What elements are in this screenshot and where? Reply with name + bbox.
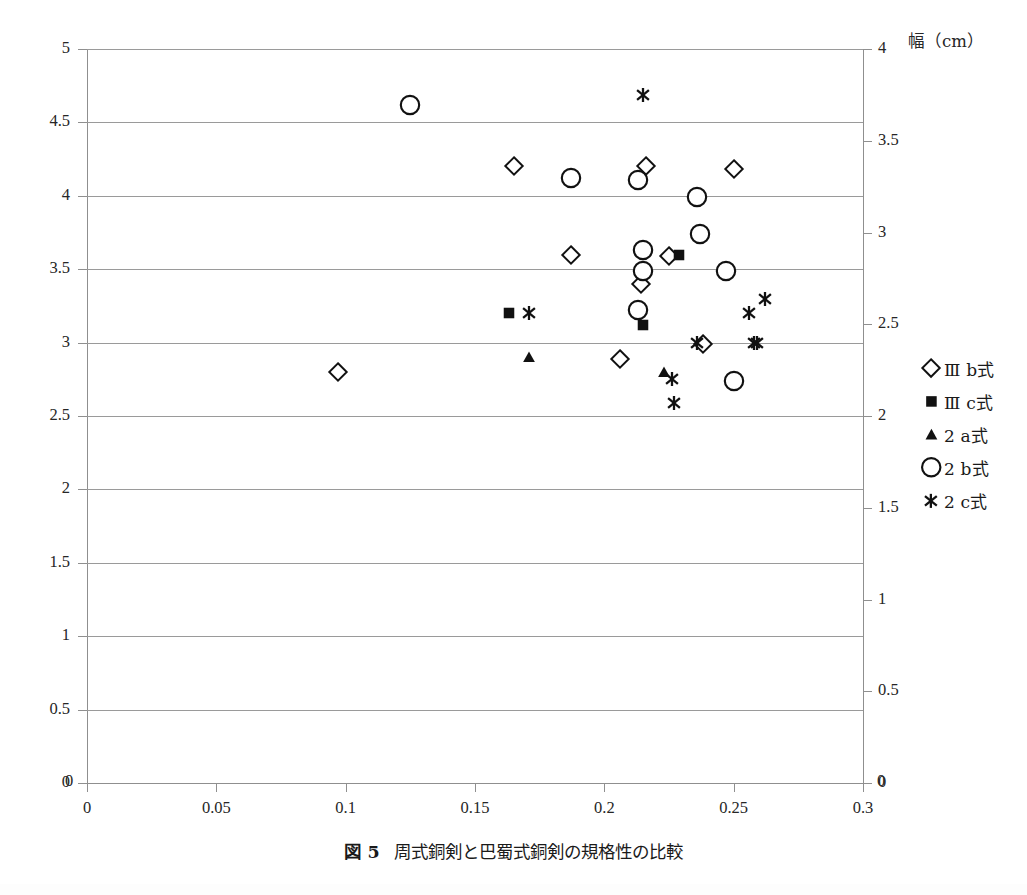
open-diamond-icon [918, 356, 944, 382]
legend-item-label: 2 a式 [944, 422, 988, 447]
y-axis-left-tick-label: 2 [10, 478, 70, 498]
x-axis-tick [346, 783, 347, 792]
data-point-filled-star[interactable] [665, 394, 683, 412]
legend: Ⅲ b式Ⅲ c式2 a式2 b式2 c式 [918, 352, 1023, 517]
y-axis-left-tick [78, 416, 87, 417]
data-point-filled-square[interactable] [501, 306, 516, 321]
figure-number: 図 5 [344, 842, 379, 862]
legend-item-2a[interactable]: 2 a式 [918, 418, 1023, 451]
legend-item-IIIb[interactable]: Ⅲ b式 [918, 352, 1023, 385]
data-point-open-circle[interactable] [714, 258, 738, 282]
y-axis-left-tick [78, 710, 87, 711]
legend-item-IIIc[interactable]: Ⅲ c式 [918, 385, 1023, 418]
y-axis-left-tick-label: 3.5 [10, 258, 70, 278]
y-axis-right-tick [863, 508, 872, 509]
y-axis-left-tick [78, 563, 87, 564]
x-axis-tick [863, 783, 864, 792]
x-axis-tick-label: 0.2 [569, 798, 639, 818]
x-axis-tick [604, 783, 605, 792]
y-axis-left-tick-label: 0 [10, 772, 70, 792]
x-axis-tick-label: 0.05 [181, 798, 251, 818]
y-axis-right-tick [863, 233, 872, 234]
scatter-plot-area[interactable] [87, 49, 863, 783]
y-axis-right-tick-label: 1 [878, 589, 938, 609]
data-point-filled-star[interactable] [520, 304, 538, 322]
data-point-open-diamond[interactable] [503, 155, 525, 177]
y-axis-right-tick [863, 691, 872, 692]
y-axis-right-tick-label: 2.5 [878, 313, 938, 333]
x-axis-tick [475, 783, 476, 792]
x-axis-origin-label-right: 0 [877, 771, 885, 791]
figure-caption: 図 5周式銅剣と巴蜀式銅剣の規格性の比較 [0, 838, 1027, 863]
legend-item-label: Ⅲ b式 [944, 356, 994, 381]
filled-triangle-icon [918, 422, 944, 448]
y-axis-left-tick-label: 4 [10, 185, 70, 205]
data-point-filled-square[interactable] [672, 247, 687, 262]
y-axis-left-tick-label: 4.5 [10, 111, 70, 131]
x-axis-tick-label: 0.25 [699, 798, 769, 818]
y-axis-left-tick [78, 269, 87, 270]
y-axis-right-tick [863, 783, 872, 784]
x-axis-tick-label: 0.3 [828, 798, 898, 818]
y-axis-left-tick [78, 783, 87, 784]
y-axis-left-tick [78, 489, 87, 490]
legend-item-label: 2 c式 [944, 488, 988, 513]
y-axis-left-tick [78, 122, 87, 123]
x-axis-tick [734, 783, 735, 792]
data-point-open-circle[interactable] [721, 369, 745, 393]
y-axis-left-tick-label: 1.5 [10, 552, 70, 572]
figure-caption-text: 周式銅剣と巴蜀式銅剣の規格性の比較 [394, 842, 683, 862]
legend-item-label: Ⅲ c式 [944, 389, 993, 414]
y-axis-left-tick [78, 49, 87, 50]
y-axis-left-tick-label: 5 [10, 38, 70, 58]
data-point-open-circle[interactable] [626, 167, 650, 191]
data-point-open-circle[interactable] [631, 258, 655, 282]
legend-item-2b[interactable]: 2 b式 [918, 451, 1023, 484]
data-point-filled-star[interactable] [756, 290, 774, 308]
y-axis-right-tick [863, 141, 872, 142]
y-axis-left-tick [78, 636, 87, 637]
data-point-filled-star[interactable] [689, 334, 707, 352]
y-axis-left-tick-label: 1 [10, 625, 70, 645]
y-axis-right-tick-label: 3 [878, 222, 938, 242]
y-axis-right-tick-label: 0 [878, 772, 938, 792]
data-point-open-diamond[interactable] [609, 348, 631, 370]
data-point-filled-star[interactable] [748, 334, 766, 352]
x-axis-tick-label: 0 [52, 798, 122, 818]
data-point-open-diamond[interactable] [723, 158, 745, 180]
y-axis-left-tick [78, 196, 87, 197]
y-axis-right-tick-label: 3.5 [878, 130, 938, 150]
filled-star-icon [918, 488, 944, 514]
data-point-filled-star[interactable] [663, 370, 681, 388]
x-axis-tick-label: 0.1 [311, 798, 381, 818]
data-point-open-diamond[interactable] [560, 243, 582, 265]
figure-container: 00.511.522.533.544.55 00.511.522.533.54 … [0, 0, 1027, 895]
legend-item-2c[interactable]: 2 c式 [918, 484, 1023, 517]
x-axis-tick [87, 783, 88, 792]
y-axis-right-tick [863, 324, 872, 325]
page-edge [0, 884, 1027, 895]
data-point-open-circle[interactable] [558, 166, 582, 190]
data-point-open-circle[interactable] [688, 222, 712, 246]
data-point-filled-triangle[interactable] [522, 350, 537, 365]
y-axis-right-tick [863, 600, 872, 601]
y-axis-left-tick [78, 343, 87, 344]
y-axis-left-tick-label: 2.5 [10, 405, 70, 425]
y-axis-right-tick [863, 49, 872, 50]
open-circle-icon [918, 455, 944, 481]
right-axis-title: 幅（cm） [908, 28, 984, 52]
y-axis-right-tick [863, 416, 872, 417]
y-axis-left-tick-label: 3 [10, 332, 70, 352]
data-point-open-circle[interactable] [626, 298, 650, 322]
y-axis-left-tick-label: 0.5 [10, 699, 70, 719]
data-point-open-circle[interactable] [398, 93, 422, 117]
x-axis-origin-label-left: 0 [65, 771, 73, 791]
data-point-open-diamond[interactable] [327, 361, 349, 383]
x-axis-tick [216, 783, 217, 792]
x-axis-tick-label: 0.15 [440, 798, 510, 818]
data-point-filled-star[interactable] [634, 86, 652, 104]
filled-square-icon [918, 389, 944, 415]
data-point-open-circle[interactable] [685, 185, 709, 209]
legend-item-label: 2 b式 [944, 455, 989, 480]
y-axis-right-tick-label: 0.5 [878, 680, 938, 700]
